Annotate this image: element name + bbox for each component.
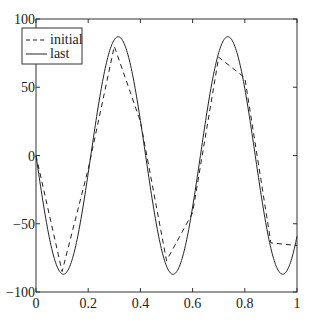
legend: initiallast [22, 28, 83, 64]
y-tick-label: 50 [21, 80, 35, 95]
line-chart: 00.20.40.60.81100500−50−100 initiallast [0, 0, 315, 322]
x-tick-label: 0.6 [184, 296, 202, 311]
series-initial-line [36, 46, 297, 271]
y-tick-label: −50 [13, 217, 35, 232]
x-tick-label: 1 [294, 296, 301, 311]
y-tick-label: 100 [14, 12, 35, 27]
plot-lines [36, 37, 297, 275]
series-last-line [36, 37, 297, 275]
legend-label-initial: initial [50, 32, 83, 47]
y-tick-label: 0 [28, 149, 35, 164]
x-tick-label: 0.4 [132, 296, 150, 311]
y-tick-label: −100 [6, 285, 35, 300]
x-tick-label: 0.2 [79, 296, 97, 311]
x-tick-label: 0.8 [236, 296, 254, 311]
legend-label-last: last [50, 46, 70, 61]
